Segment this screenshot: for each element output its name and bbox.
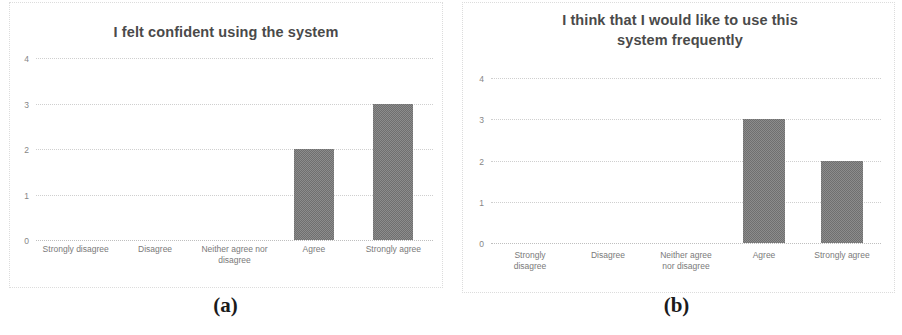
- bar-b-3: [743, 119, 785, 243]
- bars-a: [36, 58, 433, 240]
- x-axis-label-b-0-line-2: disagree: [479, 261, 581, 272]
- y-axis-tick-b-1: 1: [479, 198, 484, 208]
- x-axis-label-a-4: Strongly agree: [342, 244, 445, 255]
- bar-b-4: [821, 161, 863, 244]
- chart-title-a-line-1: I felt confident using the system: [20, 24, 432, 41]
- y-axis-tick-a-2: 2: [24, 145, 29, 155]
- y-axis-tick-b-0: 0: [479, 239, 484, 249]
- x-axis-label-b-2-line-2: nor disagree: [635, 261, 737, 272]
- chart-title-b-line-2: system frequently: [475, 30, 885, 50]
- plot-area-b: 01234 StronglydisagreeDisagreeNeither ag…: [491, 78, 881, 243]
- bar-a-4: [373, 104, 413, 241]
- plot-area-a: 01234 Strongly disagreeDisagreeNeither a…: [36, 58, 433, 240]
- x-axis-label-a-2-line-2: disagree: [183, 255, 286, 266]
- figure-panel-a: I felt confident using the system 01234 …: [0, 0, 451, 335]
- y-axis-tick-b-3: 3: [479, 115, 484, 125]
- y-axis-tick-a-1: 1: [24, 191, 29, 201]
- chart-title-a: I felt confident using the system: [20, 24, 432, 41]
- figure-row: I felt confident using the system 01234 …: [0, 0, 902, 335]
- chart-title-b-line-1: I think that I would like to use this: [475, 10, 885, 30]
- x-axis-label-b-4-line-1: Strongly agree: [791, 250, 893, 261]
- gridline-a-0: 0: [36, 240, 433, 241]
- figure-panel-b: I think that I would like to use this sy…: [451, 0, 902, 335]
- panel-caption-b: (b): [451, 293, 902, 318]
- y-axis-tick-a-4: 4: [24, 54, 29, 64]
- gridline-b-0: 0: [491, 243, 881, 244]
- panel-caption-a: (a): [0, 293, 451, 318]
- bars-b: [491, 78, 881, 243]
- chart-title-b: I think that I would like to use this sy…: [475, 10, 885, 50]
- y-axis-tick-b-4: 4: [479, 74, 484, 84]
- y-axis-tick-b-2: 2: [479, 157, 484, 167]
- y-axis-tick-a-3: 3: [24, 100, 29, 110]
- x-axis-label-b-4: Strongly agree: [791, 250, 893, 261]
- x-axis-label-a-4-line-1: Strongly agree: [342, 244, 445, 255]
- bar-a-3: [294, 149, 334, 240]
